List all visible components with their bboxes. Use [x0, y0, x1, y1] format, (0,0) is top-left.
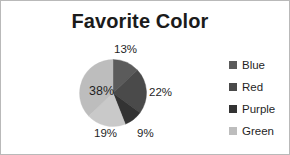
- legend-swatch-purple-icon: [229, 105, 237, 113]
- chart-container: Favorite Color 13% 22% 9% 19% 38% Blue R…: [0, 0, 290, 155]
- legend-swatch-red-icon: [229, 83, 237, 91]
- legend-label-green: Green: [242, 125, 274, 137]
- pie-data-label-22: 22%: [149, 86, 172, 98]
- legend-label-red: Red: [242, 81, 263, 93]
- legend-item-purple[interactable]: Purple: [229, 98, 289, 120]
- legend-label-blue: Blue: [242, 59, 265, 71]
- pie-plot-area: 13% 22% 9% 19% 38%: [1, 1, 201, 155]
- legend-item-green[interactable]: Green: [229, 120, 289, 142]
- pie-data-label-19: 19%: [94, 127, 117, 139]
- legend-label-purple: Purple: [242, 103, 275, 115]
- legend-swatch-green-icon: [229, 127, 237, 135]
- chart-legend: Blue Red Purple Green: [229, 54, 289, 142]
- pie-data-label-13: 13%: [114, 43, 137, 55]
- legend-item-blue[interactable]: Blue: [229, 54, 289, 76]
- pie-data-label-38: 38%: [89, 84, 114, 98]
- legend-swatch-blue-icon: [229, 61, 237, 69]
- legend-item-red[interactable]: Red: [229, 76, 289, 98]
- pie-data-label-9: 9%: [137, 127, 154, 139]
